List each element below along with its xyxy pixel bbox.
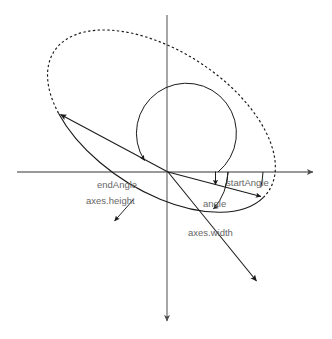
axes-height-arrow bbox=[61, 115, 169, 173]
label-angle: angle bbox=[203, 198, 226, 209]
end-angle-arc bbox=[136, 83, 236, 172]
label-axes-width: axes.width bbox=[188, 227, 233, 238]
label-axes-height: axes.height bbox=[86, 195, 135, 206]
angle-arcs-group bbox=[136, 83, 263, 209]
axes-group bbox=[17, 15, 313, 321]
labels-group: startAngle endAngle angle axes.width axe… bbox=[86, 177, 269, 238]
label-end-angle: endAngle bbox=[97, 179, 137, 190]
diagram-canvas: startAngle endAngle angle axes.width axe… bbox=[0, 0, 332, 339]
ellipse-parameter-diagram: startAngle endAngle angle axes.width axe… bbox=[0, 0, 332, 339]
label-start-angle: startAngle bbox=[226, 177, 269, 188]
